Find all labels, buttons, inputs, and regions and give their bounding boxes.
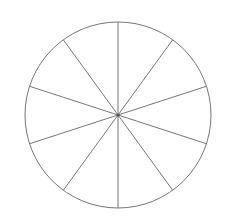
figure-root xyxy=(0,0,231,224)
fraction-circle-chart xyxy=(0,0,231,224)
center-point-dot xyxy=(116,113,119,116)
